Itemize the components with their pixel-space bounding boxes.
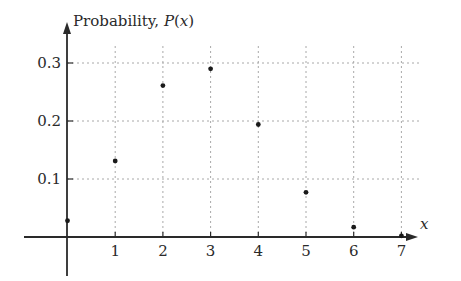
y-axis-label: Probability, P(x) xyxy=(73,12,194,30)
data-point xyxy=(65,218,70,223)
y-tick-label: 0.3 xyxy=(37,54,61,72)
gridlines xyxy=(67,46,420,237)
x-tick-label: 4 xyxy=(254,242,264,260)
data-point xyxy=(304,190,309,195)
data-points xyxy=(65,66,404,238)
ticks: 12345670.10.20.3 xyxy=(37,54,406,260)
y-axis-arrow-icon xyxy=(63,22,71,34)
x-tick-label: 2 xyxy=(158,242,168,260)
x-tick-label: 6 xyxy=(349,242,359,260)
x-axis-label: x xyxy=(420,215,429,233)
data-point xyxy=(113,159,118,164)
data-point xyxy=(256,122,261,127)
x-tick-label: 7 xyxy=(397,242,407,260)
data-point xyxy=(161,83,166,88)
data-point xyxy=(351,225,356,230)
axes xyxy=(24,22,418,276)
x-axis-arrow-icon xyxy=(406,233,418,241)
x-tick-label: 3 xyxy=(206,242,216,260)
y-tick-label: 0.1 xyxy=(37,170,61,188)
data-point xyxy=(208,66,213,71)
x-tick-label: 1 xyxy=(110,242,120,260)
probability-chart: 12345670.10.20.3 Probability, P(x) x xyxy=(0,0,461,281)
y-tick-label: 0.2 xyxy=(37,112,61,130)
x-tick-label: 5 xyxy=(301,242,311,260)
data-point xyxy=(399,233,404,238)
